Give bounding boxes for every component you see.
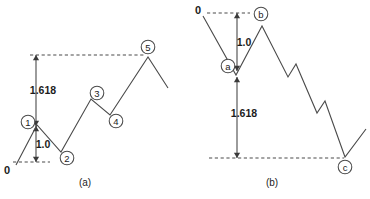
wave-node-5: 5 [141, 40, 155, 54]
wave-path-b [203, 16, 366, 157]
wave-one-unit-measure: 1.0 [33, 126, 51, 162]
wave-node-2: 2 [60, 151, 74, 165]
fib-extension-measure-value: 1.618 [30, 84, 56, 96]
node-label-b: b [258, 9, 263, 20]
fib-extension-measure-value: 1.618 [231, 107, 257, 119]
node-label-1: 1 [25, 117, 30, 128]
node-label-3: 3 [94, 88, 99, 99]
node-label-a: a [225, 61, 231, 72]
wave-node-c: c [338, 160, 352, 174]
node-label-c: c [343, 162, 348, 173]
fib-extension-measure: 1.618 [231, 77, 257, 158]
panel-caption-a: (a) [79, 177, 91, 188]
wave-node-a: a [221, 59, 235, 73]
fib-extension-measure-arrow-top [234, 77, 240, 82]
wave-a-unit-measure-arrow-top [234, 13, 240, 18]
panel-b: 1.01.6180abc(b) [195, 4, 366, 188]
panel-a: 1.6181.0012345(a) [4, 40, 168, 187]
fib-extension-measure-arrow-top [33, 55, 39, 60]
diagram-canvas: 1.6181.0012345(a)1.01.6180abc(b) [0, 0, 370, 199]
wave-node-4: 4 [109, 114, 123, 128]
wave-one-unit-measure-value: 1.0 [36, 138, 51, 150]
origin-label-a: 0 [4, 164, 10, 176]
node-label-5: 5 [145, 42, 150, 53]
origin-label-b: 0 [195, 4, 201, 16]
elliott-wave-figure: 1.6181.0012345(a)1.01.6180abc(b) [0, 0, 370, 199]
panels-group: 1.6181.0012345(a)1.01.6180abc(b) [4, 4, 366, 188]
node-label-4: 4 [113, 116, 118, 127]
fib-extension-measure-arrow-bottom [234, 153, 240, 158]
fib-extension-measure: 1.618 [30, 55, 56, 126]
panel-caption-b: (b) [266, 177, 278, 188]
wave-one-unit-measure-arrow-bottom [33, 157, 39, 162]
wave-node-b: b [254, 7, 268, 21]
wave-a-unit-measure-value: 1.0 [237, 36, 252, 48]
node-label-2: 2 [64, 153, 69, 164]
wave-node-3: 3 [90, 86, 104, 100]
wave-node-1: 1 [21, 115, 35, 129]
